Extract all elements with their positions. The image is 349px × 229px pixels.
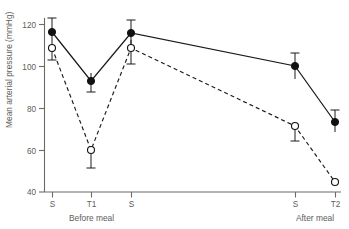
y-tick-label-120: 120: [22, 21, 36, 30]
y-tick-label-80: 80: [27, 105, 37, 114]
y-tick-label-40: 40: [27, 188, 37, 197]
series-solid-line: [52, 32, 335, 122]
group-label-after-meal: After meal: [296, 213, 334, 223]
y-axis-title: Mean arterial pressure (mmHg): [4, 11, 14, 128]
y-tick-label-60: 60: [27, 147, 37, 156]
x-tick-label-s1: S: [50, 200, 56, 209]
y-tick-marks: [39, 25, 45, 193]
error-bars-solid-series: [48, 18, 340, 132]
x-tick-label-t1: T1: [87, 200, 97, 209]
x-tick-label-t2: T2: [331, 200, 341, 209]
x-tick-label-s3: S: [293, 200, 299, 209]
y-tick-label-100: 100: [22, 63, 36, 72]
chart-figure: 120 100 80 60 40 Mean arterial pressure …: [0, 0, 349, 229]
group-label-before-meal: Before meal: [69, 213, 114, 223]
x-tick-marks: [53, 192, 336, 198]
x-tick-label-s2: S: [129, 200, 135, 209]
line-chart: 120 100 80 60 40 Mean arterial pressure …: [0, 0, 349, 229]
